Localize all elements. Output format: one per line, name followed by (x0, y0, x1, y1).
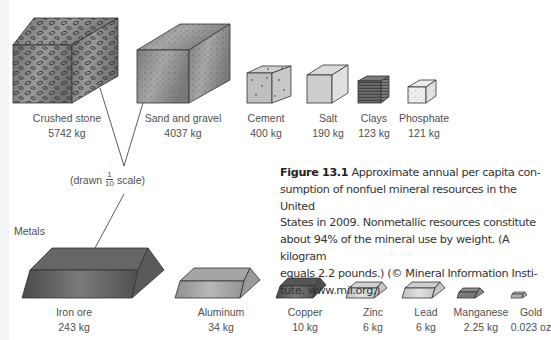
mineral-amount: 34 kg (198, 320, 245, 335)
mineral-amount: 123 kg (358, 126, 390, 141)
mineral-name: Zinc (363, 305, 383, 320)
mineral-amount: 121 kg (399, 126, 449, 141)
label-clays: Clays 123 kg (358, 111, 390, 141)
mineral-name: Crushed stone (33, 111, 101, 126)
mineral-name: Phosphate (399, 111, 449, 126)
mineral-name: Aluminum (198, 305, 245, 320)
mineral-amount: 10 kg (288, 320, 322, 335)
scale-prefix: (drawn (70, 174, 102, 186)
mineral-name: Cement (248, 111, 285, 126)
figure-caption: Figure 13.1 Approximate annual per capit… (280, 165, 548, 299)
scale-suffix: scale) (117, 174, 145, 186)
caption-line: Approximate annual per capita con- (351, 166, 540, 179)
caption-line: sumption of nonfuel mineral resources in… (280, 183, 516, 213)
mineral-amount: 0.023 oz (511, 320, 551, 335)
clays-cube (358, 76, 389, 103)
label-manganese: Manganese 2.25 kg (454, 305, 509, 335)
mineral-amount: 4037 kg (145, 126, 221, 141)
mineral-amount: 6 kg (363, 320, 383, 335)
mineral-name: Copper (288, 305, 322, 320)
phosphate-cube (408, 80, 436, 103)
mineral-name: Salt (312, 111, 344, 126)
label-sand-and-gravel: Sand and gravel 4037 kg (145, 111, 221, 141)
scale-fraction: 1 10 (105, 171, 114, 188)
label-gold: Gold 0.023 oz (511, 305, 551, 335)
caption-line: tute. www.mii.org.) (280, 284, 380, 297)
label-phosphate: Phosphate 121 kg (399, 111, 449, 141)
mineral-name: Sand and gravel (145, 111, 221, 126)
salt-cube (307, 65, 348, 103)
label-zinc: Zinc 6 kg (363, 305, 383, 335)
mineral-amount: 243 kg (56, 320, 92, 335)
cement-cube (247, 66, 291, 103)
figure-number: Figure 13.1 (280, 166, 348, 179)
metals-heading: Metals (14, 225, 45, 237)
caption-line: about 94% of the mineral use by weight. … (280, 233, 509, 263)
mineral-amount: 400 kg (248, 126, 285, 141)
caption-line: States in 2009. Nonmetallic resources co… (280, 216, 536, 229)
label-salt: Salt 190 kg (312, 111, 344, 141)
mineral-name: Iron ore (56, 305, 92, 320)
aluminum-ingot (175, 268, 260, 298)
scale-pointer-lines (95, 88, 143, 248)
label-cement: Cement 400 kg (248, 111, 285, 141)
mineral-name: Clays (358, 111, 390, 126)
label-copper: Copper 10 kg (288, 305, 322, 335)
mineral-name: Manganese (454, 305, 509, 320)
mineral-amount: 6 kg (414, 320, 437, 335)
mineral-amount: 5742 kg (33, 126, 101, 141)
label-aluminum: Aluminum 34 kg (198, 305, 245, 335)
label-lead: Lead 6 kg (414, 305, 437, 335)
scale-note: (drawn 1 10 scale) (70, 171, 145, 188)
iron-ore-ingot (22, 248, 164, 298)
sand-and-gravel-cube (137, 24, 230, 103)
crushed-stone-cube (13, 18, 118, 103)
caption-line: equals 2.2 pounds.) (© Mineral Informati… (280, 267, 537, 280)
label-crushed-stone: Crushed stone 5742 kg (33, 111, 101, 141)
fraction-denominator: 10 (105, 180, 114, 188)
mineral-name: Gold (511, 305, 551, 320)
label-iron-ore: Iron ore 243 kg (56, 305, 92, 335)
mineral-name: Lead (414, 305, 437, 320)
mineral-amount: 2.25 kg (454, 320, 509, 335)
mineral-amount: 190 kg (312, 126, 344, 141)
